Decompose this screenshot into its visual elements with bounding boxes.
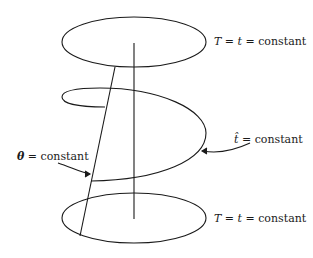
label-t-hat-surface: t̂ = constant bbox=[234, 134, 303, 146]
label-top-surface: T = t = constant bbox=[214, 36, 306, 48]
label-theta-line: θ = constant bbox=[17, 151, 89, 163]
theta-arrow bbox=[58, 163, 89, 174]
label-bottom-surface: T = t = constant bbox=[214, 213, 306, 225]
t-hat-arrowhead bbox=[202, 148, 207, 154]
theta-arrowhead bbox=[85, 171, 90, 177]
